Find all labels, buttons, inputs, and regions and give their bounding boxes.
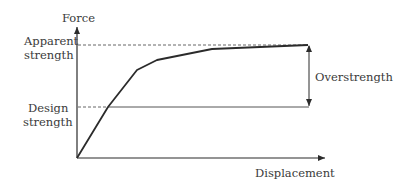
design-strength-label-line2: strength — [23, 115, 73, 129]
force-displacement-diagram: Force Displacement Apparent strength Des… — [0, 0, 403, 190]
y-axis-label: Force — [62, 11, 95, 25]
design-strength-label-line1: Design — [28, 101, 69, 115]
overstrength-label: Overstrength — [315, 70, 393, 84]
apparent-strength-label-line1: Apparent — [23, 34, 79, 48]
x-axis-label: Displacement — [255, 166, 335, 180]
apparent-strength-label-line2: strength — [24, 48, 74, 62]
capacity-curve — [77, 45, 308, 158]
